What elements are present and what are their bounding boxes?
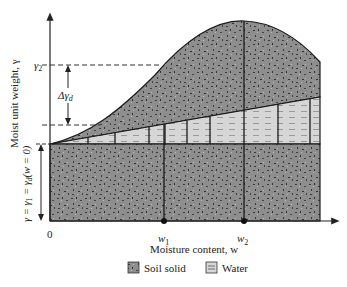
gamma2-label: γ2 (34, 59, 42, 73)
w2-label: w2 (237, 232, 248, 247)
legend-soil-label: Soil solid (144, 262, 186, 274)
legend-water-swatch (206, 262, 217, 273)
legend-water-label: Water (222, 262, 248, 274)
moisture-unit-weight-diagram: 0 w1 w2 Moisture content, w γ2 Δγd Moist… (0, 0, 347, 287)
y-origin-label: γ = γ1 = γd(w = 0) (21, 145, 34, 222)
delta-gamma-label: Δγd (57, 89, 74, 103)
x-axis-label: Moisture content, w (150, 243, 238, 255)
soil-region-base (50, 144, 320, 221)
legend: Soil solid Water (128, 262, 248, 274)
w2-marker (241, 218, 247, 224)
x-zero-label: 0 (47, 228, 53, 240)
w1-marker (161, 218, 167, 224)
y-axis-label: Moist unit weight, γ (8, 59, 20, 148)
legend-soil-swatch (128, 262, 139, 273)
